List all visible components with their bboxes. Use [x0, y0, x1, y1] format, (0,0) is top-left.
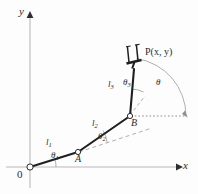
origin-label: 0 — [17, 169, 23, 180]
gripper-tip-left — [126, 46, 131, 47]
joint-label-b: B — [131, 118, 137, 128]
x-axis-arrowhead — [176, 163, 183, 170]
angle-label-theta2-subscript: 2 — [102, 135, 105, 142]
manipulator-links-group — [30, 69, 134, 167]
link-3-segment — [130, 69, 134, 116]
angle-arcs-group — [55, 59, 188, 167]
x-axis-label: x — [183, 160, 188, 171]
arc-theta3 — [132, 89, 144, 92]
angle-label-theta3: θ3 — [123, 78, 131, 88]
link-label-1: l1 — [46, 138, 52, 148]
joint-label-a: A — [75, 154, 81, 164]
angle-label-theta1: θ1 — [51, 151, 59, 161]
link-label-1-subscript: 1 — [49, 141, 52, 148]
end-effector-point-label: P(x, y) — [145, 47, 172, 57]
gripper-tip-right — [135, 44, 140, 45]
diagram-vector-layer — [0, 0, 198, 194]
link-label-3: l3 — [108, 80, 114, 90]
link-label-2: l2 — [92, 119, 98, 129]
y-axis-arrowhead — [27, 11, 34, 18]
angle-label-theta2: θ2 — [98, 132, 106, 142]
link-label-2-subscript: 2 — [95, 122, 98, 129]
gripper-group — [126, 44, 142, 68]
gripper-prong-left — [127, 47, 129, 63]
angle-label-theta3-subscript: 3 — [127, 81, 130, 88]
angle-label-theta: θ — [156, 78, 160, 87]
axes-group — [6, 11, 183, 188]
angle-label-theta-base: θ — [156, 77, 160, 87]
link-label-3-subscript: 3 — [111, 83, 114, 90]
angle-label-theta1-subscript: 1 — [55, 154, 58, 161]
y-axis-label: y — [19, 6, 24, 17]
link1-extension-dashed — [79, 128, 152, 152]
kinematics-diagram: y x 0 A B l1 l2 l3 θ1 θ2 θ3 θ P(x, y) — [0, 0, 198, 194]
joint-marker-origin — [27, 164, 33, 170]
arc-theta — [137, 59, 187, 116]
